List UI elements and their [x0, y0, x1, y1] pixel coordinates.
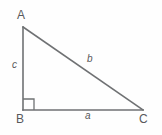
vertex-label-c: C [139, 113, 148, 125]
side-label-a: a [85, 111, 91, 121]
vertex-label-a: A [17, 9, 25, 21]
right-triangle-figure: A B C c b a [0, 0, 162, 135]
side-label-b: b [87, 54, 93, 64]
side-b-hypotenuse-line [23, 27, 143, 110]
right-angle-marker-icon [23, 99, 34, 110]
side-label-c: c [12, 60, 17, 70]
vertex-label-b: B [16, 113, 24, 125]
